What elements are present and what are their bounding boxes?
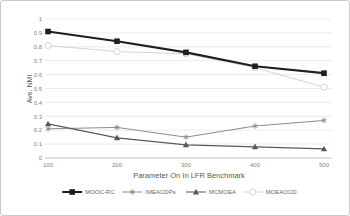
x-tick-label: 100	[43, 162, 54, 168]
square-marker-icon	[321, 70, 327, 76]
x-tick-label: 400	[250, 162, 261, 168]
series-imeacdps	[46, 118, 327, 140]
open-circle-marker-icon	[114, 49, 120, 55]
line-chart: 00.10.20.30.40.50.60.70.80.91 1002003004…	[1, 1, 350, 216]
open-circle-marker-icon	[45, 42, 51, 48]
square-marker-icon	[69, 189, 75, 195]
chart-frame: 00.10.20.30.40.50.60.70.80.91 1002003004…	[0, 0, 350, 216]
x-tick-label: 300	[181, 162, 192, 168]
x-tick-label: 200	[112, 162, 123, 168]
square-marker-icon	[252, 63, 258, 69]
y-tick-label: 0.2	[34, 127, 43, 133]
y-tick-label: 1	[39, 16, 43, 22]
x-tick-label: 500	[319, 162, 330, 168]
legend-label: IMEACDPs	[145, 189, 175, 195]
open-circle-marker-icon	[321, 84, 327, 90]
square-marker-icon	[183, 50, 189, 56]
y-tick-label: 0.8	[34, 44, 43, 50]
legend-item-mooc-rc: MOOC-RC	[62, 189, 115, 195]
y-tick-label: 0	[39, 155, 43, 161]
series-mooc-rc	[45, 29, 327, 76]
series-moeaocd	[45, 42, 327, 90]
square-marker-icon	[45, 29, 51, 35]
y-tick-label: 0.4	[34, 100, 43, 106]
triangle-marker-icon	[45, 121, 51, 127]
x-axis-title: Parameter On In LFR Benchmark	[133, 171, 245, 180]
y-tick-label: 0.7	[34, 58, 43, 64]
legend-label: MOEAOCD	[266, 189, 298, 195]
y-tick-label: 0.5	[34, 86, 43, 92]
y-axis-tick-labels: 00.10.20.30.40.50.60.70.80.91	[34, 16, 43, 161]
legend-item-moeaocd: MOEAOCD	[243, 189, 298, 195]
legend-label: MOOC-RC	[85, 189, 115, 195]
open-circle-marker-icon	[250, 189, 256, 195]
y-tick-label: 0.9	[34, 30, 43, 36]
legend-item-imeacdps: IMEACDPs	[122, 189, 175, 195]
legend: MOOC-RCIMEACDPsMCMOEAMOEAOCD	[62, 189, 297, 196]
x-axis-tick-labels: 100200300400500	[43, 162, 330, 168]
y-tick-label: 0.1	[34, 141, 43, 147]
legend-label: MCMOEA	[209, 189, 236, 195]
legend-item-mcmoea: MCMOEA	[186, 189, 236, 196]
square-marker-icon	[114, 38, 120, 44]
y-tick-label: 0.3	[34, 114, 43, 120]
y-tick-label: 0.6	[34, 72, 43, 78]
y-axis-title: Ave. NMI	[26, 75, 33, 104]
